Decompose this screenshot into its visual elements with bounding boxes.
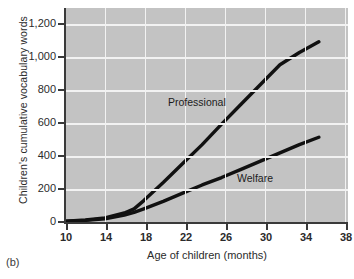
gridline-horizontal <box>66 57 348 59</box>
x-tick <box>146 224 148 230</box>
y-tick-label: 400 <box>38 149 56 161</box>
y-tick-label: 600 <box>38 116 56 128</box>
gridline-horizontal <box>66 156 348 158</box>
y-tick <box>58 89 65 91</box>
plot-area: Professional Welfare <box>66 8 348 222</box>
y-tick-label: 1,200 <box>28 17 56 29</box>
y-tick <box>58 221 65 223</box>
x-tick-label: 22 <box>171 231 201 243</box>
x-tick-label: 30 <box>251 231 281 243</box>
y-axis-title: Children's cumulative vocabulary words <box>17 0 29 225</box>
x-tick <box>66 224 68 230</box>
figure-caption: (b) <box>6 256 19 268</box>
y-tick-label: 200 <box>38 182 56 194</box>
x-tick <box>226 224 228 230</box>
gridline-horizontal <box>66 24 348 26</box>
x-tick-label: 26 <box>211 231 241 243</box>
x-axis-title: Age of children (months) <box>66 249 348 261</box>
x-tick-label: 34 <box>291 231 321 243</box>
y-tick-label: 800 <box>38 83 56 95</box>
x-tick-label: 18 <box>131 231 161 243</box>
x-tick <box>266 224 268 230</box>
gridline-horizontal <box>66 90 348 92</box>
x-tick-label: 14 <box>91 231 121 243</box>
series-label-welfare: Welfare <box>237 172 273 184</box>
x-tick-label: 10 <box>51 231 81 243</box>
y-tick <box>58 23 65 25</box>
x-tick <box>186 224 188 230</box>
y-tick-label: 1,000 <box>28 50 56 62</box>
y-tick <box>58 56 65 58</box>
y-axis-line <box>64 8 66 224</box>
y-tick-label: 0 <box>50 215 56 227</box>
gridline-horizontal <box>66 123 348 125</box>
figure-panel-b: Children's cumulative vocabulary words P… <box>0 0 354 279</box>
y-tick <box>58 122 65 124</box>
x-tick <box>306 224 308 230</box>
series-label-professional: Professional <box>168 96 226 108</box>
x-tick-label: 38 <box>331 231 354 243</box>
y-tick <box>58 155 65 157</box>
x-tick <box>106 224 108 230</box>
gridline-horizontal <box>66 189 348 191</box>
x-tick <box>346 224 348 230</box>
y-tick <box>58 188 65 190</box>
